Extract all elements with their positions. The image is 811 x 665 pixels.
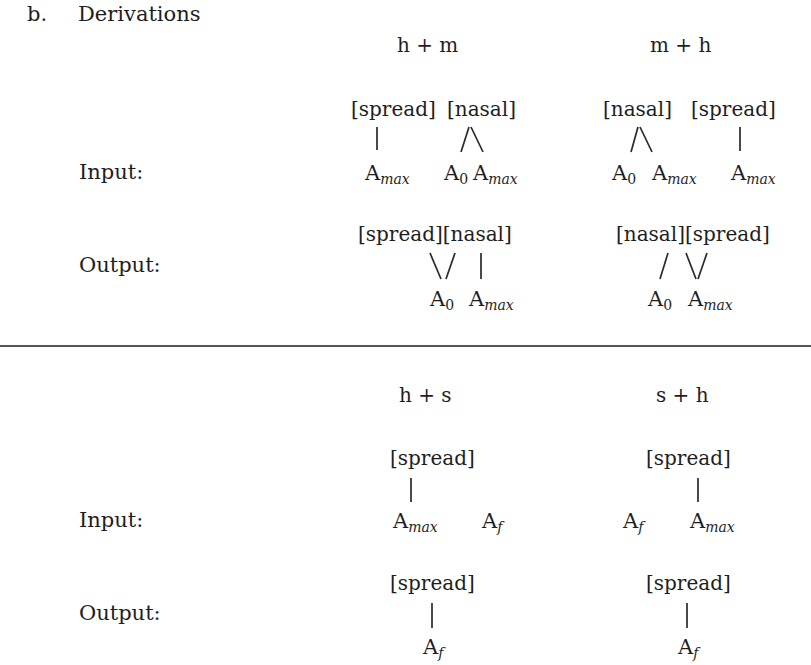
association-line: [446, 253, 455, 279]
segment-a-max: Amax: [688, 287, 733, 317]
feature-spread: [spread]: [646, 571, 731, 595]
header-h-plus-m: h + m: [397, 33, 458, 57]
segment-a-0: A0: [648, 287, 672, 317]
feature-nasal: [nasal]: [447, 97, 516, 121]
output-label: Output:: [79, 601, 161, 625]
header-m-plus-h: m + h: [650, 33, 711, 57]
segment-a-0: A0: [444, 161, 468, 191]
segment-a-max: Amax: [469, 287, 514, 317]
segment-a-f: Af: [423, 635, 443, 665]
association-line: [430, 253, 441, 279]
panel-divider: [0, 345, 811, 347]
segment-a-max: Amax: [652, 161, 697, 191]
association-line: [686, 253, 696, 279]
feature-nasal-spread: [nasal][spread]: [616, 222, 770, 246]
segment-a-f: Af: [678, 635, 698, 665]
section-title: Derivations: [78, 2, 201, 26]
feature-spread: [spread]: [390, 571, 475, 595]
feature-spread: [spread]: [691, 97, 776, 121]
segment-a-max: Amax: [731, 161, 776, 191]
association-line: [631, 127, 638, 152]
association-line: [461, 127, 469, 152]
segment-a-max: Amax: [393, 509, 438, 539]
segment-a-f: Af: [482, 509, 502, 539]
segment-a-0: A0: [612, 161, 636, 191]
feature-spread-nasal: [spread][nasal]: [358, 222, 512, 246]
feature-spread: [spread]: [646, 446, 731, 470]
input-label: Input:: [79, 508, 143, 532]
association-line: [698, 253, 707, 279]
input-label: Input:: [79, 160, 143, 184]
association-line: [471, 127, 483, 152]
header-h-plus-s: h + s: [399, 383, 452, 407]
segment-a-max: Amax: [473, 161, 518, 191]
association-line: [640, 127, 652, 152]
feature-spread: [spread]: [351, 97, 436, 121]
output-label: Output:: [79, 253, 161, 277]
segment-a-f: Af: [623, 509, 643, 539]
feature-spread: [spread]: [390, 446, 475, 470]
section-marker: b.: [27, 2, 47, 26]
feature-nasal: [nasal]: [603, 97, 672, 121]
segment-a-0: A0: [430, 287, 454, 317]
association-line: [660, 253, 668, 279]
segment-a-max: Amax: [690, 509, 735, 539]
header-s-plus-h: s + h: [656, 383, 709, 407]
segment-a-max: Amax: [365, 161, 410, 191]
